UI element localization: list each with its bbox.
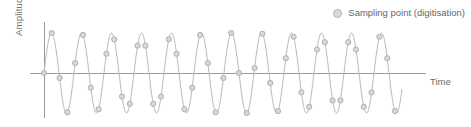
sampling-point [174,51,179,56]
sampling-point [166,37,171,42]
sampling-point [49,30,54,35]
sampling-point [88,85,93,90]
sampling-point [275,108,280,113]
sampling-point [205,60,210,65]
sampling-point [338,98,343,103]
sampling-point [57,75,62,80]
sampling-point [392,108,397,113]
sampling-point [73,60,78,65]
sampling-point [361,104,366,109]
sampling-point [377,34,382,39]
sampling-point [213,110,218,115]
sampling-point [244,110,249,115]
sampling-point [353,47,358,52]
sampling-point [158,94,163,99]
sampling-point [104,51,109,56]
x-axis-label: Time [430,76,451,87]
sampling-point [330,98,335,103]
sampling-point [369,90,374,95]
sampling-point [236,70,241,75]
sampling-point [41,70,46,75]
legend-item-label: Sampling point (digitisation) [348,8,465,18]
y-axis-label: Amplitude [13,0,24,36]
sampling-point [260,31,265,36]
sampling-point [252,65,257,70]
chart-legend: Sampling point (digitisation) [333,5,465,21]
sampling-point [322,40,327,45]
sampling-point [314,47,319,52]
sampling-point [119,94,124,99]
sampling-point [135,43,140,48]
sampling-point [385,56,390,61]
sampling-point [65,110,70,115]
sampling-point [299,90,304,95]
sampling-point [182,107,187,112]
sampling-point [96,107,101,112]
sampling-point [112,37,117,42]
sampling-point [143,43,148,48]
sampling-point [80,32,85,37]
sampling-point [190,85,195,90]
sampling-point [127,101,132,106]
sampling-point-marker-icon [333,9,342,18]
sampling-point [291,34,296,39]
sampling-point [346,40,351,45]
sampling-point [268,80,273,85]
sampling-point [307,104,312,109]
sampling-point [197,32,202,37]
sampling-point [229,30,234,35]
sampling-point [151,101,156,106]
sampling-point [283,56,288,61]
sampling-point [221,75,226,80]
chart-figure: Sampling point (digitisation) Amplitude … [0,0,471,127]
